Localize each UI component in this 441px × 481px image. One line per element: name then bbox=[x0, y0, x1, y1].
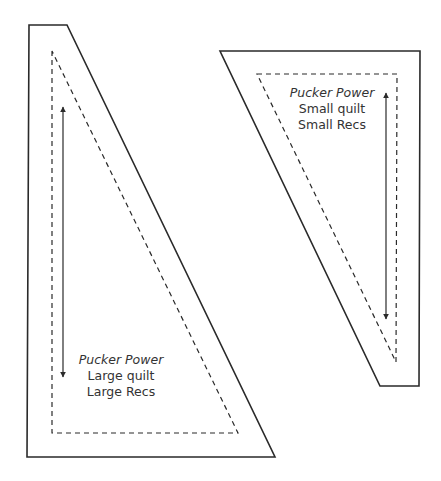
small-template-label: Pucker Power Small quilt Small Recs bbox=[282, 85, 382, 133]
large-template-label: Pucker Power Large quilt Large Recs bbox=[71, 352, 171, 400]
small-template-recs: Small Recs bbox=[282, 117, 382, 133]
large-template-title: Pucker Power bbox=[71, 352, 171, 368]
large-template-recs: Large Recs bbox=[71, 384, 171, 400]
templates-diagram bbox=[0, 0, 441, 481]
large-template-size: Large quilt bbox=[71, 368, 171, 384]
small-template-title: Pucker Power bbox=[282, 85, 382, 101]
small-template-size: Small quilt bbox=[282, 101, 382, 117]
